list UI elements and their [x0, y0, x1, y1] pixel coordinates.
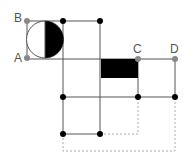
dot [97, 18, 103, 24]
dot [135, 94, 141, 100]
label-a: A [14, 52, 22, 64]
point-c-dot [135, 56, 141, 62]
point-d-dot [172, 56, 178, 62]
dot [60, 94, 66, 100]
filled-right-half [45, 21, 64, 58]
dashed-lines [63, 97, 175, 151]
inner-dashed-path [100, 97, 138, 134]
black-rectangle [101, 59, 138, 78]
dot [60, 18, 66, 24]
dot [172, 94, 178, 100]
dot [60, 131, 66, 137]
label-b: B [14, 12, 22, 24]
semicircle-shape [27, 21, 64, 58]
label-c: C [133, 43, 142, 55]
point-a-dot [24, 55, 30, 61]
dot [97, 131, 103, 137]
outer-dashed-path [63, 97, 175, 151]
point-b-dot [24, 18, 30, 24]
geometry-diagram [0, 0, 193, 160]
label-d: D [170, 43, 179, 55]
